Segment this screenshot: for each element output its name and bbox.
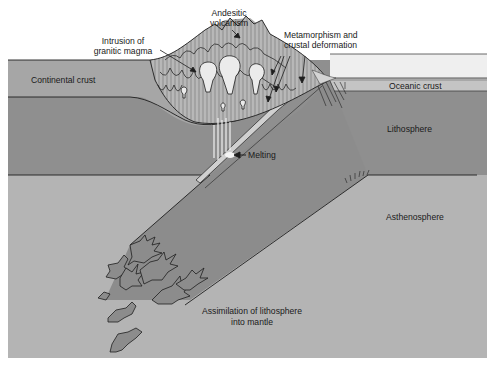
label-intrusion-2: granitic magma xyxy=(94,46,153,56)
label-asthenosphere: Asthenosphere xyxy=(386,212,444,222)
subduction-zone-diagram: Andesitic volcanism Intrusion of graniti… xyxy=(0,0,495,370)
label-intrusion-1: Intrusion of xyxy=(102,36,145,46)
label-assimilation-2: into mantle xyxy=(231,317,273,327)
label-continental-crust: Continental crust xyxy=(31,75,96,85)
label-lithosphere: Lithosphere xyxy=(387,124,432,134)
label-metamorphism-2: crustal deformation xyxy=(284,40,357,50)
label-andesitic-volcanism-2: volcanism xyxy=(210,18,248,28)
sea xyxy=(330,54,487,78)
label-andesitic-volcanism-1: Andesitic xyxy=(212,8,248,18)
label-metamorphism-1: Metamorphism and xyxy=(284,30,358,40)
label-oceanic-crust: Oceanic crust xyxy=(389,81,442,91)
label-melting: Melting xyxy=(248,150,276,160)
label-assimilation-1: Assimilation of lithosphere xyxy=(202,306,302,316)
